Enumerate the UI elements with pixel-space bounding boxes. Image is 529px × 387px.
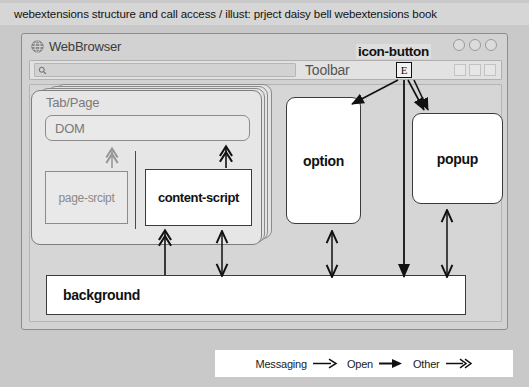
legend: Messaging Open Other [215,350,513,377]
url-search-input[interactable] [34,63,296,77]
toolbar-square-icon-3[interactable] [484,64,496,76]
caption-text: webextensions structure and call access … [0,8,437,20]
page-script-box: page-srcipt [45,171,128,224]
option-label: option [303,153,344,169]
popup-label: popup [437,151,478,167]
page-script-label: page-srcipt [58,191,114,205]
toolbar-right-icons [454,64,496,76]
content-script-label: content-script [158,190,239,205]
toolbar-label: Toolbar [305,62,350,78]
icon-button-annotation-label: icon-button [356,44,431,59]
solid-filled-arrow-icon [378,357,404,370]
title-bar: WebBrowser [22,34,507,58]
legend-item-open: Open [347,357,404,370]
minimize-button[interactable] [453,39,465,51]
legend-item-other: Other [413,357,473,370]
tab-page-panel: Tab/Page DOM page-srcipt content-script [31,90,262,245]
legend-label-messaging: Messaging [255,358,306,370]
background-label: background [63,287,140,303]
toolbar-square-icon-2[interactable] [469,64,481,76]
legend-label-open: Open [347,358,373,370]
legend-item-messaging: Messaging [255,357,337,370]
globe-icon [31,40,44,53]
double-chevron-arrow-icon [445,357,473,370]
browser-toolbar: Toolbar [29,60,502,80]
maximize-button[interactable] [469,39,481,51]
content-script-box: content-script [145,169,252,226]
popup-box: popup [412,113,503,204]
thin-open-arrow-icon [312,357,338,370]
dom-box: DOM [45,115,250,141]
tab-page-label: Tab/Page [46,95,99,110]
icon-button[interactable]: E [396,62,412,78]
caption-strip: webextensions structure and call access … [0,3,529,25]
background-box: background [46,275,466,315]
legend-label-other: Other [413,358,440,370]
toolbar-square-icon-1[interactable] [454,64,466,76]
search-icon [38,66,47,75]
window-controls [453,39,497,51]
context-divider-line [135,151,136,229]
dom-label: DOM [55,121,85,136]
close-button[interactable] [485,39,497,51]
option-box: option [286,97,361,224]
browser-title: WebBrowser [49,39,121,54]
